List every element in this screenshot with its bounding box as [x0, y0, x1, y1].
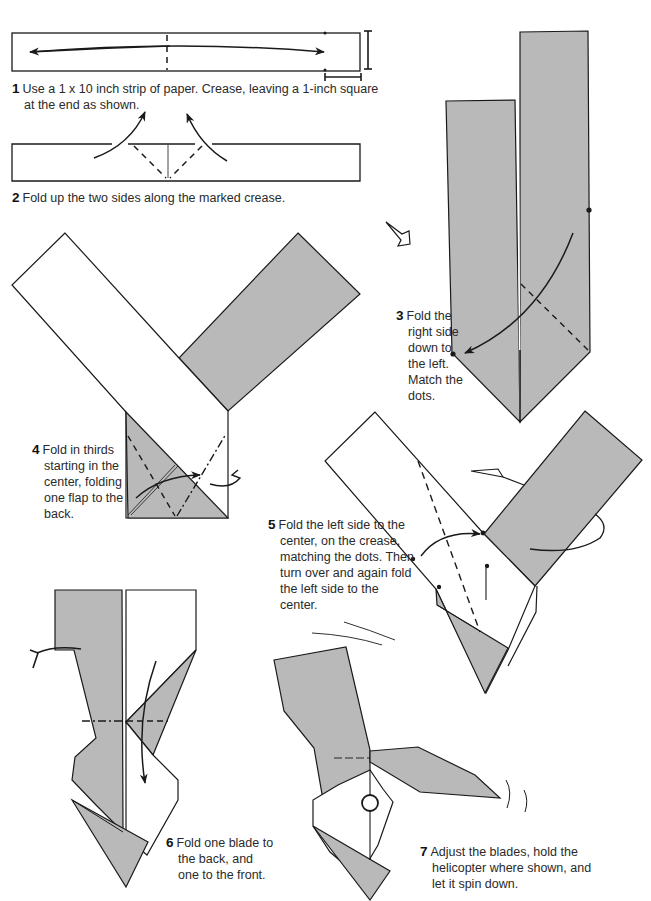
- step-text: Use a 1 x 10 inch strip of paper. Crease…: [23, 82, 379, 112]
- spin-motion-lines: [312, 622, 395, 645]
- paper-strip: [12, 33, 360, 71]
- match-dot: [324, 32, 327, 35]
- step-3-caption: 3Fold the right side down to the left. M…: [396, 308, 464, 404]
- step-text: Fold the left side to the center, on the…: [279, 518, 414, 612]
- match-dot: [324, 69, 327, 72]
- step-text: Fold up the two sides along the marked c…: [23, 191, 286, 205]
- step-number: 3: [396, 308, 404, 323]
- step-1-caption: 1Use a 1 x 10 inch strip of paper. Creas…: [12, 81, 392, 113]
- step-4-caption: 4Fold in thirds starting in the center, …: [32, 442, 128, 522]
- step-text: Fold the right side down to the left. Ma…: [407, 309, 463, 403]
- turn-over-arrow-icon: [471, 469, 503, 477]
- step-text: Fold one blade to the back, and one to t…: [177, 836, 274, 882]
- step-text: Adjust the blades, hold the helicopter w…: [431, 845, 592, 891]
- match-dot: [481, 531, 486, 536]
- step-text: Fold in thirds starting in the center, f…: [43, 443, 124, 521]
- step-number: 1: [12, 81, 20, 96]
- match-dot: [485, 564, 489, 568]
- step-number: 5: [268, 517, 276, 532]
- step3-diagram: [446, 31, 592, 422]
- step-number: 2: [12, 190, 20, 205]
- step-number: 6: [166, 835, 174, 850]
- step-6-caption: 6Fold one blade to the back, and one to …: [166, 835, 276, 883]
- step2-diagram: [12, 112, 360, 181]
- match-dot: [586, 207, 591, 212]
- step-number: 4: [32, 442, 40, 457]
- step-5-caption: 5Fold the left side to the center, on th…: [268, 517, 418, 613]
- match-dot: [437, 585, 441, 589]
- step1-diagram: [12, 31, 372, 81]
- rotate-view-arrow-icon: [386, 222, 410, 246]
- step-2-caption: 2Fold up the two sides along the marked …: [12, 190, 332, 206]
- hold-point-circle: [362, 795, 378, 811]
- spin-motion-lines: [506, 780, 510, 808]
- step-7-caption: 7Adjust the blades, hold the helicopter …: [420, 844, 595, 892]
- step-number: 7: [420, 844, 428, 859]
